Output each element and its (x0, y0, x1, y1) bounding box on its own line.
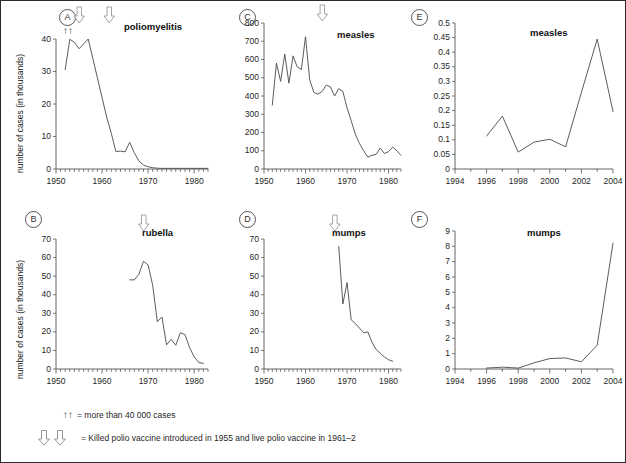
panel-e-xtick: 1998 (502, 176, 534, 186)
panel-e-xtick: 2004 (597, 176, 626, 186)
panel-a-xtick: 1970 (132, 176, 164, 186)
panel-f-ytick: 0 (419, 364, 450, 374)
footnote-text-vaccine-intro: = Killed polio vaccine introduced in 195… (81, 433, 356, 443)
panel-f-ytick: 6 (419, 272, 450, 282)
panel-a-down-arrow-icon (74, 7, 85, 23)
panel-f-ytick: 2 (419, 333, 450, 343)
panel-c-down-arrow-icon (317, 5, 328, 21)
up-arrow-legend-icon: ↑↑ (63, 410, 73, 420)
panel-f-ytick: 9 (419, 226, 450, 236)
panel-e-xtick: 2002 (565, 176, 597, 186)
panel-b-xtick: 1960 (86, 376, 118, 386)
panel-a-ytick: 20 (20, 99, 51, 109)
panel-e-ytick: 0.2 (419, 105, 450, 115)
panel-a-plot-area: 0102030401950196019701980 (1, 1, 216, 201)
panel-e-plot-area: 00.050.10.150.20.250.30.350.40.450.51994… (405, 1, 626, 201)
panel-f-ytick: 7 (419, 256, 450, 266)
panel-d-data-line (339, 246, 393, 361)
panel-f-ytick: 3 (419, 318, 450, 328)
footnote-row-up-arrows: ↑↑ = more than 40 000 cases (63, 410, 176, 420)
panel-e-xtick: 1994 (439, 176, 471, 186)
panel-a-xtick: 1950 (40, 176, 72, 186)
panel-d-ytick: 60 (228, 252, 259, 262)
panel-c-xtick: 1960 (290, 176, 322, 186)
panel-d-ytick: 10 (228, 345, 259, 355)
down-arrow-legend-icon-1 (37, 430, 51, 446)
panel-e-ytick: 0.1 (419, 134, 450, 144)
panel-e-xtick: 2000 (534, 176, 566, 186)
panel-e-ytick: 0.05 (419, 149, 450, 159)
panel-f-ytick: 1 (419, 348, 450, 358)
panel-d-ytick: 50 (228, 271, 259, 281)
panel-b-ytick: 60 (20, 252, 51, 262)
panel-c-ytick: 500 (228, 72, 259, 82)
panel-d-down-arrow-icon (330, 215, 341, 231)
panel-a-ytick: 40 (20, 34, 51, 44)
panel-d-ytick: 0 (228, 364, 259, 374)
panel-a-data-line (65, 39, 208, 168)
panel-e-ytick: 0.25 (419, 91, 450, 101)
panel-b-ytick: 0 (20, 364, 51, 374)
panel-b-ytick: 20 (20, 326, 51, 336)
panel-d-xtick: 1960 (290, 376, 322, 386)
panel-b-xtick: 1980 (178, 376, 210, 386)
panel-c-data-line (272, 37, 401, 157)
panel-a-down-arrow-icon (104, 7, 115, 23)
down-arrow-legend-icon-2 (53, 430, 67, 446)
panel-c-xtick: 1950 (248, 176, 280, 186)
footnote-row-down-arrows: = Killed polio vaccine introduced in 195… (37, 430, 356, 446)
panel-c-ytick: 400 (228, 91, 259, 101)
panel-f-ytick: 5 (419, 287, 450, 297)
panel-f-xtick: 2004 (597, 376, 626, 386)
panel-b-ytick: 70 (20, 234, 51, 244)
panel-b-down-arrow-icon (139, 215, 150, 231)
panel-b-ytick: 30 (20, 308, 51, 318)
panel-a-ytick: 0 (20, 164, 51, 174)
panel-d-xtick: 1980 (373, 376, 405, 386)
panel-f-plot-area: 0123456789199419961998200020022004 (405, 201, 626, 401)
panel-b-data-line (130, 261, 204, 363)
panel-b-xtick: 1970 (132, 376, 164, 386)
panel-a-ytick: 30 (20, 66, 51, 76)
panel-e-data-line (487, 39, 613, 152)
panel-c-ytick: 200 (228, 127, 259, 137)
panel-a-poliomyelitis: A poliomyelitis number of cases (in thou… (1, 1, 216, 201)
panel-e-ytick: 0.15 (419, 120, 450, 130)
panel-f-data-line (487, 243, 613, 368)
panel-f-xtick: 2000 (534, 376, 566, 386)
panel-b-ytick: 50 (20, 271, 51, 281)
panel-d-ytick: 70 (228, 234, 259, 244)
panel-e-measles-recent: E measles 00.050.10.150.20.250.30.350.40… (405, 1, 626, 201)
panel-f-ytick: 8 (419, 241, 450, 251)
panel-e-ytick: 0 (419, 164, 450, 174)
panel-f-xtick: 2002 (565, 376, 597, 386)
panel-f-xtick: 1998 (502, 376, 534, 386)
panel-c-ytick: 800 (228, 18, 259, 28)
panel-c-ytick: 600 (228, 54, 259, 64)
panel-f-mumps-recent: F mumps 01234567891994199619982000200220… (405, 201, 626, 401)
panel-f-xtick: 1996 (471, 376, 503, 386)
panel-b-plot-area: 0102030405060701950196019701980 (1, 201, 216, 401)
panel-a-xtick: 1960 (86, 176, 118, 186)
panel-d-ytick: 40 (228, 289, 259, 299)
panel-e-ytick: 0.5 (419, 18, 450, 28)
panel-c-ytick: 100 (228, 145, 259, 155)
panel-c-ytick: 700 (228, 36, 259, 46)
panel-b-ytick: 10 (20, 345, 51, 355)
panel-d-ytick: 20 (228, 326, 259, 336)
panel-f-ytick: 4 (419, 302, 450, 312)
panel-c-measles: C measles 010020030040050060070080019501… (214, 1, 411, 201)
panel-c-plot-area: 0100200300400500600700800195019601970198… (214, 1, 411, 201)
footnote-text-more-than-40000: = more than 40 000 cases (77, 410, 176, 420)
panel-b-ytick: 40 (20, 289, 51, 299)
panel-e-ytick: 0.45 (419, 32, 450, 42)
panel-c-xtick: 1980 (373, 176, 405, 186)
figure-panel-grid: A poliomyelitis number of cases (in thou… (0, 0, 626, 463)
panel-a-xtick: 1980 (178, 176, 210, 186)
panel-d-xtick: 1970 (331, 376, 363, 386)
panel-d-xtick: 1950 (248, 376, 280, 386)
panel-e-ytick: 0.35 (419, 61, 450, 71)
panel-c-ytick: 300 (228, 109, 259, 119)
panel-b-rubella: B rubella number of cases (in thousands)… (1, 201, 216, 401)
panel-f-xtick: 1994 (439, 376, 471, 386)
